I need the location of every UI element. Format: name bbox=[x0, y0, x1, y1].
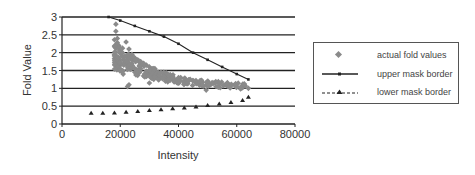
x-tick-label: 0 bbox=[59, 128, 65, 140]
diamond-marker-icon bbox=[314, 47, 364, 63]
legend-label: actual fold values bbox=[377, 50, 447, 60]
dashed-line-triangle-marker-icon bbox=[314, 84, 364, 100]
y-tick-label: 2 bbox=[51, 47, 57, 59]
x-axis-title: Intensity bbox=[158, 149, 199, 161]
legend-item-upper-mask-border: upper mask border bbox=[314, 66, 453, 82]
y-axis-ticks: 00.511.522.53 bbox=[42, 11, 62, 130]
y-axis-title: Fold Value bbox=[21, 44, 33, 96]
y-tick-label: 1 bbox=[51, 82, 57, 94]
lower-mask-border-series bbox=[89, 95, 251, 115]
x-tick-label: 80000 bbox=[280, 128, 311, 140]
legend-label: lower mask border bbox=[377, 87, 451, 97]
legend-item-actual-fold-values: actual fold values bbox=[314, 47, 447, 63]
y-tick-label: 2.5 bbox=[42, 29, 57, 41]
x-axis-ticks: 020000400006000080000 bbox=[59, 124, 310, 140]
actual-fold-values-series bbox=[112, 21, 252, 93]
x-tick-label: 40000 bbox=[163, 128, 194, 140]
y-tick-label: 1.5 bbox=[42, 65, 57, 77]
gridlines bbox=[62, 17, 295, 106]
y-tick-label: 0.5 bbox=[42, 100, 57, 112]
x-tick-label: 60000 bbox=[221, 128, 252, 140]
legend: actual fold values upper mask border low… bbox=[313, 42, 459, 104]
legend-item-lower-mask-border: lower mask border bbox=[314, 84, 451, 100]
legend-label: upper mask border bbox=[377, 69, 453, 79]
solid-line-square-marker-icon bbox=[314, 66, 364, 82]
x-tick-label: 20000 bbox=[105, 128, 136, 140]
y-tick-label: 3 bbox=[51, 11, 57, 23]
y-tick-label: 0 bbox=[51, 118, 57, 130]
